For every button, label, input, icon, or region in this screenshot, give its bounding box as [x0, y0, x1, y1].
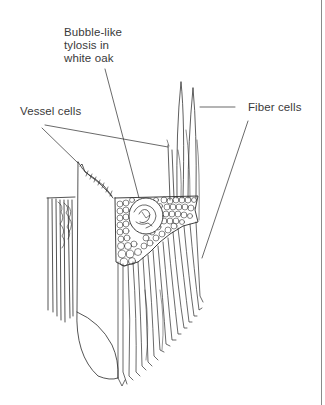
- tylosis-bubble: [129, 198, 163, 234]
- vessel-leader-line-b: [42, 128, 78, 163]
- left-fiber-block: [47, 197, 75, 322]
- cross-section-band: [115, 196, 198, 266]
- page-border-rule: [321, 0, 322, 405]
- wood-anatomy-drawing: [0, 0, 325, 405]
- vessel-leader-line-a: [45, 125, 168, 147]
- tylosis-leader-line: [105, 69, 139, 198]
- fiber-bundle-upper: [167, 82, 199, 220]
- vessel-cell: [77, 162, 118, 379]
- fiber-leader-line-bottom: [202, 121, 248, 258]
- fiber-bundle-lower: [118, 222, 203, 386]
